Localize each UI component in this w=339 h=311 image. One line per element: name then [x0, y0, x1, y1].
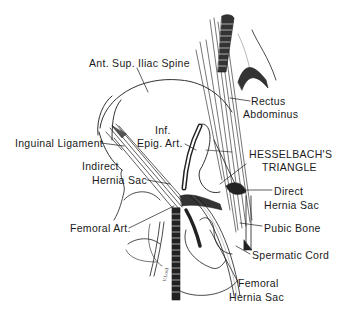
- leader-hesselbach: [220, 164, 246, 184]
- label-epig-art: Epig. Art.: [137, 137, 183, 149]
- label-indirect: Indirect: [82, 160, 119, 172]
- direct-hernia-sac: [226, 183, 246, 195]
- anatomy-figure: V.Lord Ant. Sup. Iliac Spine Rectus Abdo…: [0, 0, 339, 311]
- leader-ant-sup-iliac: [137, 68, 148, 92]
- iliac-inner-curve: [98, 96, 112, 135]
- inf-epigastric-artery: [184, 126, 200, 188]
- leader-inguinal-ligament: [101, 143, 124, 146]
- artist-signature: V.Lord: [162, 267, 169, 282]
- leader-rectus: [230, 98, 250, 101]
- label-indirect-hernia-sac: Hernia Sac: [92, 174, 147, 186]
- label-femoral: Femoral: [238, 277, 279, 289]
- label-abdominus: Abdominus: [243, 108, 298, 120]
- upper-hook-vessel: [238, 67, 268, 90]
- label-pubic-bone: Pubic Bone: [264, 222, 321, 234]
- iliac-crest-outline: [100, 80, 232, 128]
- label-femoral-hernia-sac: Hernia Sac: [229, 291, 284, 303]
- femoral-hernia-outline: [185, 230, 226, 269]
- label-inguinal-ligament: Inguinal Ligament: [15, 137, 103, 149]
- label-direct: Direct: [274, 185, 303, 197]
- label-triangle: TRIANGLE: [262, 161, 317, 173]
- femoral-art-strand: [150, 222, 160, 276]
- upper-vessel: [218, 15, 234, 72]
- label-spermatic-cord: Spermatic Cord: [252, 249, 329, 261]
- label-femoral-art: Femoral Art.: [70, 222, 131, 234]
- upper-right-fascia-2: [238, 34, 250, 70]
- femoral-vein-dark: [186, 210, 200, 246]
- label-ant-sup-iliac-spine: Ant. Sup. Iliac Spine: [89, 57, 190, 69]
- label-rectus: Rectus: [251, 95, 285, 107]
- label-inf: Inf.: [155, 124, 171, 136]
- leader-femoral-art: [129, 206, 174, 228]
- epig-loop: [199, 124, 220, 193]
- label-direct-hernia-sac: Hernia Sac: [264, 199, 319, 211]
- label-hesselbachs: HESSELBACH'S: [249, 148, 332, 160]
